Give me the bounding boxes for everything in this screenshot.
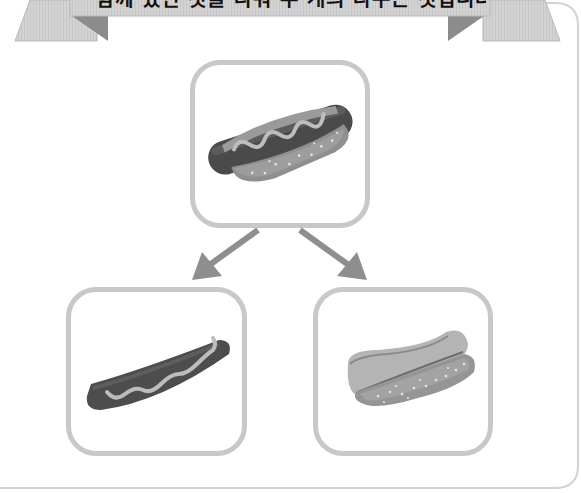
sausage-icon [71,292,242,451]
arrow-right-icon [300,230,367,280]
card-sausage [66,287,247,456]
card-bun [313,287,493,456]
arrow-left-icon [192,230,258,280]
bun-icon [318,292,488,451]
